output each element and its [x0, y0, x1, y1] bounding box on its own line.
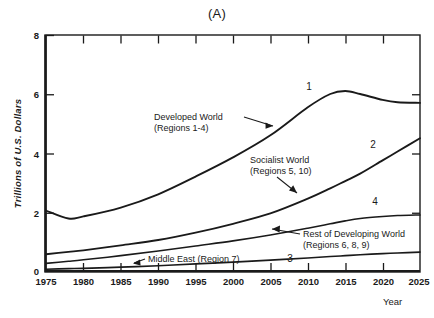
x-axis-label: Year: [383, 296, 402, 307]
x-tick-label: 1990: [148, 276, 169, 287]
annotation-rest-line1: Rest of Developing World: [303, 229, 405, 239]
x-tick-label: 2015: [335, 276, 357, 287]
y-tick-label: 6: [34, 89, 39, 100]
chart-figure: (A) Trillions of U.S. Dollars Year 8 6: [0, 0, 434, 318]
chart-plot-svg: 8 6 4 2 0: [0, 0, 434, 318]
x-tick-labels: 1975 1980 1985 1990 1995 2000 2005 2010 …: [35, 276, 430, 287]
x-tick-label: 2020: [373, 276, 394, 287]
y-axis-label: Trillions of U.S. Dollars: [12, 74, 23, 234]
y-tick-label: 4: [34, 149, 40, 160]
curve-label-4: 4: [372, 196, 378, 207]
chart-title: (A): [0, 6, 434, 21]
curve-label-3: 3: [287, 253, 293, 264]
annotation-developed-world-line2: (Regions 1-4): [154, 123, 209, 133]
x-tick-label: 1980: [73, 276, 94, 287]
annotation-middle-east-line1: Middle East (Region 7): [148, 254, 240, 264]
annotation-developed-world-line1: Developed World: [154, 112, 223, 122]
curve-label-2: 2: [370, 139, 376, 150]
annotation-socialist-world-line1: Socialist World: [250, 155, 309, 165]
annotation-socialist-world-line2: (Regions 5, 10): [250, 166, 312, 176]
annotation-middle-east: Middle East (Region 7): [133, 254, 240, 266]
y-tick-label: 8: [34, 30, 39, 41]
x-tick-label: 1975: [35, 276, 57, 287]
y-tick-label: 2: [34, 208, 39, 219]
x-tick-label: 1985: [110, 276, 132, 287]
x-tick-label: 2000: [223, 276, 244, 287]
x-tick-label: 1995: [185, 276, 207, 287]
x-tick-label: 2005: [260, 276, 282, 287]
x-tick-label: 2010: [298, 276, 319, 287]
x-tick-label: 2025: [408, 276, 430, 287]
annotation-rest-line2: (Regions 6, 8, 9): [303, 240, 370, 250]
curve-label-1: 1: [306, 81, 312, 92]
y-tick-labels: 8 6 4 2 0: [34, 30, 40, 277]
